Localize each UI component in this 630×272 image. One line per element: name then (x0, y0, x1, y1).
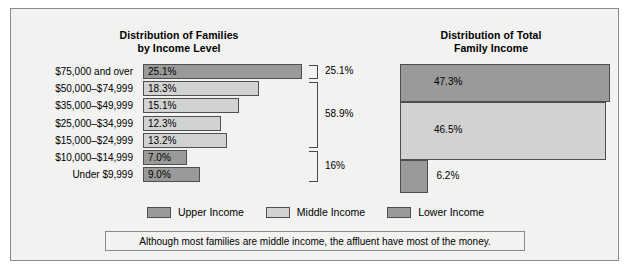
legend-swatch (387, 207, 411, 218)
bar-value-label: 13.2% (148, 133, 176, 148)
caption-box: Although most families are middle income… (105, 231, 525, 251)
left-chart-row: $10,000–$14,9997.0% (11, 150, 341, 167)
chart-figure: Distribution of Families by Income Level… (10, 8, 619, 261)
left-chart-title-line2: by Income Level (137, 42, 220, 54)
bar-value-label: 18.3% (148, 81, 176, 96)
category-label: $75,000 and over (11, 64, 133, 79)
bar-value-label: 7.0% (148, 150, 171, 165)
category-label: $10,000–$14,999 (11, 150, 133, 165)
legend-swatch (147, 207, 171, 218)
bracket-upper (309, 65, 318, 79)
left-chart-row: $15,000–$24,99913.2% (11, 133, 341, 150)
left-chart-row: $25,000–$34,99912.3% (11, 116, 341, 133)
legend-item: Middle Income (266, 206, 365, 218)
bar-value-label: 12.3% (148, 116, 176, 131)
category-label: $25,000–$34,999 (11, 116, 133, 131)
right-bar-middle (400, 102, 606, 160)
bracket-middle (309, 82, 318, 148)
left-chart-title-line1: Distribution of Families (119, 29, 238, 41)
bar-value-label: 25.1% (148, 64, 176, 79)
category-label: $15,000–$24,999 (11, 133, 133, 148)
chart-legend: Upper IncomeMiddle IncomeLower Income (11, 202, 620, 222)
bracket-label: 16% (325, 160, 345, 171)
category-label: $50,000–$74,999 (11, 81, 133, 96)
legend-item: Upper Income (147, 206, 244, 218)
right-chart-title: Distribution of Total Family Income (381, 29, 601, 55)
right-bar-value-label: 46.5% (434, 124, 462, 135)
left-chart-title: Distribution of Families by Income Level (69, 29, 289, 55)
bracket-label: 58.9% (325, 108, 353, 119)
right-bar-upper (400, 64, 610, 102)
caption-text: Although most families are middle income… (139, 236, 490, 247)
left-chart-row: $75,000 and over25.1% (11, 64, 341, 81)
right-chart-title-line1: Distribution of Total (440, 29, 541, 41)
left-chart-row: Under $9,9999.0% (11, 167, 341, 184)
right-bar-value-label: 47.3% (434, 76, 462, 87)
left-chart-row: $50,000–$74,99918.3% (11, 81, 341, 98)
bar-value-label: 9.0% (148, 167, 171, 182)
legend-label: Upper Income (178, 206, 244, 218)
legend-swatch (266, 207, 290, 218)
right-chart-title-line2: Family Income (454, 42, 528, 54)
bar-value-label: 15.1% (148, 98, 176, 113)
category-label: $35,000–$49,999 (11, 98, 133, 113)
bracket-group: 25.1%58.9%16% (309, 64, 399, 199)
right-bar-lower (400, 160, 428, 193)
legend-label: Middle Income (297, 206, 365, 218)
category-label: Under $9,999 (11, 167, 133, 182)
bracket-lower (309, 151, 318, 182)
left-chart-row: $35,000–$49,99915.1% (11, 98, 341, 115)
legend-label: Lower Income (418, 206, 484, 218)
bracket-label: 25.1% (325, 65, 353, 76)
right-bar-value-label: 6.2% (437, 170, 460, 181)
left-chart-plot-area: $75,000 and over25.1%$50,000–$74,99918.3… (11, 64, 341, 199)
right-chart-plot-area: 47.3%46.5%6.2% (400, 64, 610, 199)
legend-item: Lower Income (387, 206, 484, 218)
